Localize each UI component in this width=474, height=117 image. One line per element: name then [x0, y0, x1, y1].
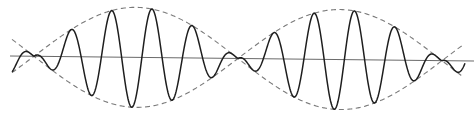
- wave-plot: [0, 0, 474, 117]
- beat-wave-diagram: [0, 0, 474, 117]
